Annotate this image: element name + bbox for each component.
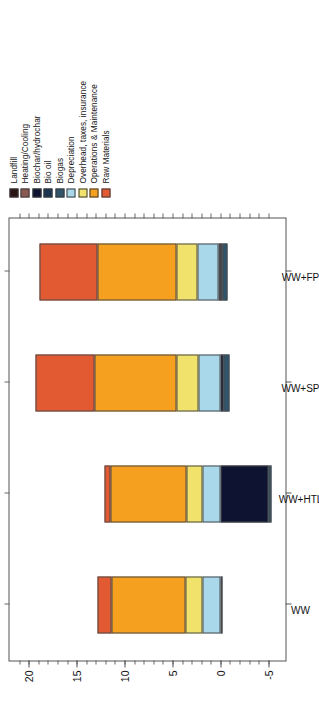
- y-axis-minor-tick: [258, 660, 259, 664]
- y-axis-tick-label: 5: [166, 670, 178, 676]
- bar-segment[interactable]: [223, 354, 228, 412]
- legend-item[interactable]: Biogas: [54, 7, 65, 197]
- y-axis-tick: [76, 660, 77, 667]
- legend-swatch-icon: [43, 188, 52, 197]
- y-axis-tick-label: -5: [262, 670, 274, 679]
- y-axis-minor-tick-right: [268, 213, 269, 218]
- figure-root: LandfillHeating/CoolingBiochar/hydrochar…: [0, 0, 319, 717]
- y-axis-minor-tick: [143, 660, 144, 664]
- y-axis-minor-tick-right: [258, 213, 259, 218]
- legend-item-label: Biogas: [55, 157, 64, 183]
- bar-segment[interactable]: [268, 465, 271, 523]
- y-axis-tick: [28, 660, 29, 667]
- x-axis-tick-top: [4, 382, 9, 383]
- bar-segment[interactable]: [176, 243, 197, 301]
- y-axis-tick-label: 15: [70, 670, 82, 682]
- legend-item[interactable]: Operations & Maintenance: [89, 7, 100, 197]
- bar-segment[interactable]: [185, 576, 201, 634]
- bar-segment[interactable]: [110, 465, 187, 523]
- legend-item[interactable]: Depreciation: [66, 7, 77, 197]
- bar-segment[interactable]: [198, 354, 220, 412]
- bar-segment[interactable]: [39, 243, 97, 301]
- bar-stack[interactable]: [9, 354, 287, 412]
- bar-segment[interactable]: [186, 465, 201, 523]
- legend-item-label: Depreciation: [66, 136, 75, 183]
- bar-segment[interactable]: [197, 243, 218, 301]
- y-axis-minor-tick-right: [143, 213, 144, 218]
- y-axis-minor-tick: [57, 660, 58, 664]
- legend-swatch-icon: [78, 188, 87, 197]
- y-axis-minor-tick: [114, 660, 115, 664]
- legend-swatch-icon: [101, 188, 110, 197]
- y-axis-minor-tick: [162, 660, 163, 664]
- legend-swatch-icon: [32, 188, 41, 197]
- y-axis-tick-label: 0: [214, 670, 226, 676]
- y-axis-minor-tick: [38, 660, 39, 664]
- y-axis-minor-tick-right: [249, 213, 250, 218]
- y-axis-minor-tick: [182, 660, 183, 664]
- y-axis-minor-tick-right: [105, 213, 106, 218]
- legend-item[interactable]: Biochar/hydrochar: [31, 7, 42, 197]
- bar-segment[interactable]: [202, 576, 220, 634]
- y-axis-minor-tick: [210, 660, 211, 664]
- legend-item[interactable]: Raw Materials: [100, 7, 111, 197]
- y-axis-minor-tick-right: [182, 213, 183, 218]
- y-axis-tick-label: 10: [118, 670, 130, 682]
- y-axis-minor-tick-right: [76, 213, 77, 218]
- y-axis-minor-tick-right: [19, 213, 20, 218]
- bar-segment[interactable]: [97, 243, 177, 301]
- legend-item-label: Landfill: [9, 156, 18, 183]
- y-axis-minor-tick-right: [57, 213, 58, 218]
- legend-item[interactable]: Landfill: [8, 7, 19, 197]
- y-axis-minor-tick: [191, 660, 192, 664]
- x-axis-tick-top: [4, 271, 9, 272]
- legend-swatch-icon: [9, 188, 18, 197]
- bar-stack[interactable]: [9, 576, 287, 634]
- bar-segment[interactable]: [104, 465, 110, 523]
- y-axis-minor-tick: [67, 660, 68, 664]
- y-axis-minor-tick: [229, 660, 230, 664]
- legend-item-label: Heating/Cooling: [20, 123, 29, 183]
- legend-swatch-icon: [89, 188, 98, 197]
- plot-inner: -505101520WWWW+HTLWW+SPWW+FP: [9, 218, 285, 660]
- x-axis-tick-top: [4, 493, 9, 494]
- y-axis-minor-tick: [134, 660, 135, 664]
- bar-segment[interactable]: [111, 576, 186, 634]
- y-axis-minor-tick: [19, 660, 20, 664]
- bar-segment[interactable]: [176, 354, 198, 412]
- legend-item[interactable]: Heating/Cooling: [20, 7, 31, 197]
- y-axis-minor-tick-right: [134, 213, 135, 218]
- legend-swatch-icon: [20, 188, 29, 197]
- legend-item-label: Biochar/hydrochar: [32, 115, 41, 183]
- y-axis-minor-tick-right: [153, 213, 154, 218]
- bar-segment[interactable]: [222, 243, 227, 301]
- y-axis-minor-tick-right: [124, 213, 125, 218]
- chart-legend: LandfillHeating/CoolingBiochar/hydrochar…: [8, 7, 111, 197]
- y-axis-minor-tick-right: [229, 213, 230, 218]
- bar-segment[interactable]: [35, 354, 94, 412]
- y-axis-minor-tick: [105, 660, 106, 664]
- y-axis-minor-tick-right: [191, 213, 192, 218]
- y-axis-minor-tick: [86, 660, 87, 664]
- y-axis-minor-tick: [153, 660, 154, 664]
- y-axis-tick: [268, 660, 269, 667]
- y-axis-minor-tick-right: [28, 213, 29, 218]
- y-axis-minor-tick-right: [114, 213, 115, 218]
- y-axis-minor-tick: [239, 660, 240, 664]
- y-axis-minor-tick-right: [201, 213, 202, 218]
- bar-stack[interactable]: [9, 465, 287, 523]
- bar-segment[interactable]: [94, 354, 175, 412]
- legend-item[interactable]: Bio oil: [43, 7, 54, 197]
- legend-item[interactable]: Overhead, taxes, insurance: [77, 7, 88, 197]
- bar-segment[interactable]: [220, 465, 268, 523]
- bar-segment[interactable]: [97, 576, 110, 634]
- legend-item-label: Raw Materials: [101, 130, 110, 183]
- bar-segment[interactable]: [220, 354, 223, 412]
- legend-item-label: Overhead, taxes, insurance: [78, 80, 87, 183]
- y-axis-minor-tick-right: [67, 213, 68, 218]
- bar-segment[interactable]: [202, 465, 220, 523]
- legend-swatch-icon: [66, 188, 75, 197]
- y-axis-minor-tick: [95, 660, 96, 664]
- bar-stack[interactable]: [9, 243, 287, 301]
- y-axis-minor-tick: [201, 660, 202, 664]
